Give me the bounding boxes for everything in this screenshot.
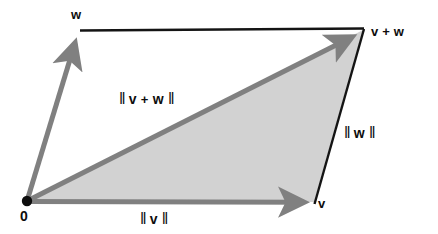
vector-w — [27, 43, 75, 201]
norm-operand-v: v — [129, 91, 137, 107]
label-norm-w: ‖ w ‖ — [344, 125, 375, 141]
label-norm-v-plus-w: ‖ v + w ‖ — [119, 91, 173, 107]
norm-v-bar-close: ‖ — [162, 210, 168, 227]
label-v-plus-w: v + w — [371, 25, 404, 38]
norm-v-bar-open: ‖ — [140, 210, 146, 227]
label-origin: 0 — [20, 209, 28, 223]
norm-w-operand: w — [354, 125, 365, 141]
label-v: v — [318, 197, 325, 210]
norm-plus-sign: + — [141, 92, 149, 107]
norm-w-bar-open: ‖ — [344, 124, 350, 141]
label-w: w — [71, 8, 81, 21]
parallelogram-top-edge — [80, 29, 364, 31]
norm-v-operand: v — [150, 211, 158, 227]
norm-bar-close: ‖ — [168, 90, 174, 107]
norm-operand-w: w — [153, 91, 164, 107]
norm-w-bar-close: ‖ — [369, 124, 375, 141]
vector-v — [27, 202, 304, 203]
norm-bar-open: ‖ — [119, 90, 125, 107]
origin-point-dot — [22, 196, 32, 206]
vector-diagram-figure: w v + w v 0 ‖ v + w ‖ ‖ w ‖ ‖ v ‖ — [0, 0, 438, 234]
label-norm-v: ‖ v ‖ — [140, 211, 167, 227]
